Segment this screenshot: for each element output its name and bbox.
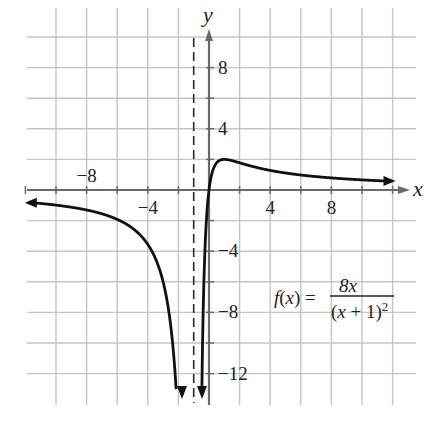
formula-numerator: 8x [339, 275, 358, 296]
y-tick-label: 4 [218, 118, 228, 139]
arrow-left-icon [25, 198, 37, 208]
x-axis-label: x [412, 176, 423, 201]
function-graph: −8−448 84−4−8−12 x y f(x) = 8x (x + 1)2 [0, 0, 430, 427]
arrow-down-icon [197, 386, 207, 399]
y-axis-label: y [201, 2, 213, 27]
x-tick-label: −4 [138, 197, 159, 218]
y-tick-label: −12 [218, 363, 248, 384]
x-tick-label: −8 [76, 165, 96, 186]
curve-right-branch [202, 159, 387, 391]
y-axis-arrow-icon [205, 29, 213, 41]
formula-lhs: f(x) = [274, 287, 316, 309]
x-axis-arrow-icon [398, 186, 410, 194]
arrow-right-icon [383, 176, 395, 186]
x-tick-label: 4 [265, 197, 275, 218]
y-tick-label: −8 [218, 301, 238, 322]
horizontal-grid-lines [27, 37, 416, 374]
y-tick-label: −4 [218, 240, 239, 261]
curve-left-branch [34, 203, 176, 389]
x-tick-label: 8 [327, 197, 337, 218]
formula-denominator: (x + 1)2 [331, 299, 388, 323]
y-tick-label: 8 [218, 57, 228, 78]
